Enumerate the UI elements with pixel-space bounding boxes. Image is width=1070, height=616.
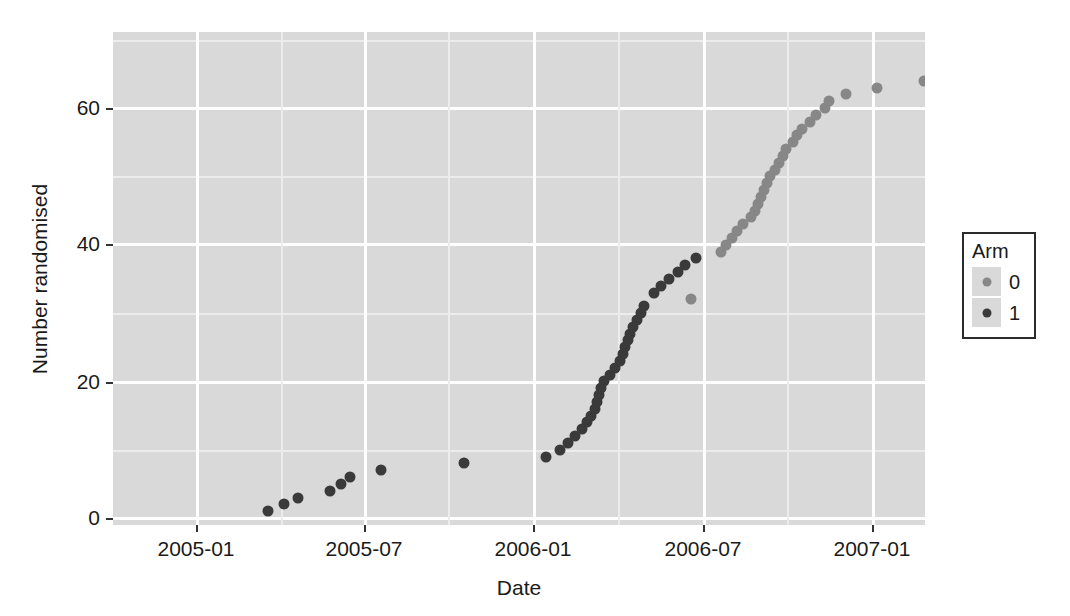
- gridline-minor-vertical: [281, 32, 283, 525]
- gridline-major-horizontal: [113, 107, 925, 110]
- gridline-major-vertical: [364, 32, 367, 525]
- x-tick-label-2006-01: 2006-01: [463, 537, 603, 561]
- x-axis-title: Date: [113, 576, 925, 600]
- data-point: [345, 472, 356, 483]
- gridline-minor-vertical: [618, 32, 620, 525]
- y-tick-label-0: 0: [46, 506, 100, 530]
- gridline-minor-horizontal: [113, 450, 925, 452]
- chart-figure: Number randomised 60 40 20 0: [0, 0, 1070, 616]
- legend-dot-icon: [982, 277, 991, 286]
- gridline-minor-horizontal: [113, 176, 925, 178]
- data-point: [919, 75, 926, 86]
- gridline-major-vertical: [703, 32, 706, 525]
- y-tick-label-20: 20: [46, 370, 100, 394]
- legend-item-1[interactable]: 1: [972, 297, 1026, 328]
- data-point: [459, 458, 470, 469]
- legend-label-1: 1: [1009, 303, 1020, 323]
- gridline-minor-vertical: [448, 32, 450, 525]
- gridline-major-horizontal: [113, 517, 925, 520]
- legend-title: Arm: [972, 241, 1026, 262]
- legend-item-0[interactable]: 0: [972, 266, 1026, 297]
- y-tick-mark: [106, 244, 113, 246]
- legend: Arm 0 1: [962, 232, 1036, 339]
- data-point: [691, 253, 702, 264]
- data-point: [810, 109, 821, 120]
- legend-key-swatch-0: [972, 267, 1001, 296]
- x-tick-mark: [872, 525, 874, 532]
- gridline-major-vertical: [196, 32, 199, 525]
- data-point: [279, 499, 290, 510]
- data-point: [541, 451, 552, 462]
- x-tick-mark: [703, 525, 705, 532]
- legend-label-0: 0: [1009, 272, 1020, 292]
- gridline-major-horizontal: [113, 381, 925, 384]
- x-tick-label-2005-01: 2005-01: [126, 537, 266, 561]
- data-point: [841, 89, 852, 100]
- x-tick-mark: [196, 525, 198, 532]
- y-tick-mark: [106, 108, 113, 110]
- x-tick-mark: [364, 525, 366, 532]
- x-tick-label-2007-01: 2007-01: [802, 537, 942, 561]
- gridline-minor-vertical: [787, 32, 789, 525]
- data-point: [872, 82, 883, 93]
- y-tick-mark: [106, 382, 113, 384]
- plot-panel: [113, 32, 925, 525]
- data-point: [263, 506, 274, 517]
- data-point: [376, 465, 387, 476]
- gridline-major-vertical: [533, 32, 536, 525]
- data-point: [680, 260, 691, 271]
- x-tick-label-2005-07: 2005-07: [294, 537, 434, 561]
- gridline-minor-horizontal: [113, 313, 925, 315]
- x-tick-label-2006-07: 2006-07: [633, 537, 773, 561]
- data-point: [824, 96, 835, 107]
- y-axis-title-text: Number randomised: [28, 183, 52, 373]
- data-point: [293, 492, 304, 503]
- y-tick-label-40: 40: [46, 232, 100, 256]
- gridline-major-vertical: [872, 32, 875, 525]
- data-point: [325, 485, 336, 496]
- gridline-minor-horizontal: [113, 40, 925, 42]
- data-point: [685, 294, 696, 305]
- legend-key-swatch-1: [972, 298, 1001, 327]
- y-tick-label-60: 60: [46, 96, 100, 120]
- gridline-major-horizontal: [113, 243, 925, 246]
- x-tick-mark: [533, 525, 535, 532]
- y-tick-mark: [106, 518, 113, 520]
- data-point: [639, 301, 650, 312]
- legend-dot-icon: [982, 308, 991, 317]
